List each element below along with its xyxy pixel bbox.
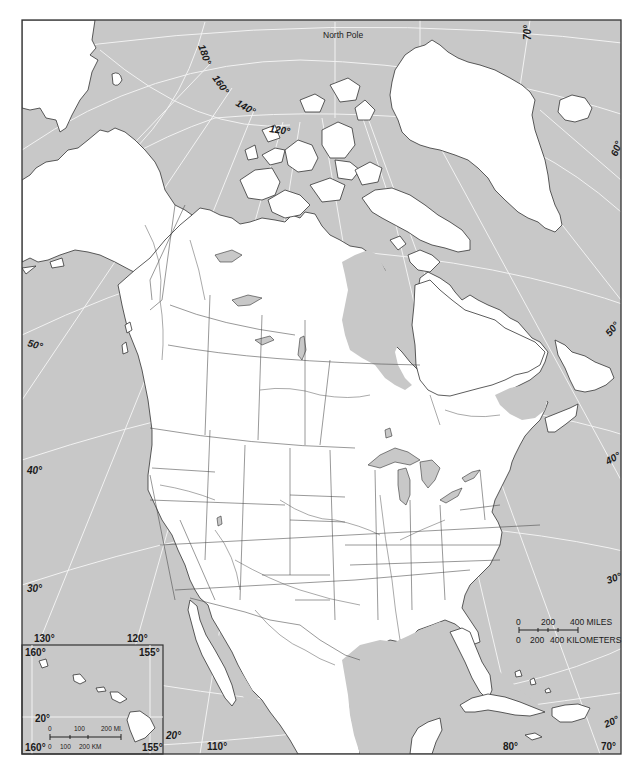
inset-scale-km-0: 0 (48, 743, 52, 750)
latitude-label-20-mexico: 20° (165, 730, 182, 741)
inset-scale-mi-100: 100 (74, 725, 85, 732)
longitude-label-80: 80° (503, 741, 518, 752)
longitude-label-130: 130° (34, 633, 55, 644)
inset-label-bottom-right: 155° (142, 742, 163, 753)
inset-latitude-label: 20° (35, 713, 50, 724)
scale-miles-0: 0 (516, 617, 521, 627)
inset-scale-km-200: 200 KM (79, 743, 101, 750)
inset-scale-km-100: 100 (60, 743, 71, 750)
longitude-label-110: 110° (207, 741, 227, 752)
scale-km-0: 0 (516, 635, 521, 645)
longitude-label-70-bottom: 70° (601, 741, 616, 752)
inset-label-top-left: 160° (25, 647, 46, 658)
inset-label-top-right: 155° (139, 647, 160, 658)
inset-label-bottom-left: 160° (25, 742, 46, 753)
scale-km-400: 400 KILOMETERS (550, 635, 622, 645)
longitude-label-120: 120° (127, 633, 148, 644)
north-pole-label: North Pole (323, 30, 363, 40)
hawaii-inset: 0 100 200 MI. 0 100 200 KM 160° 155° 160… (22, 645, 163, 754)
north-america-outline-map: 0 100 200 MI. 0 100 200 KM 160° 155° 160… (0, 0, 643, 769)
scale-miles-200: 200 (541, 617, 555, 627)
latitude-label-40-left: 40° (26, 465, 43, 476)
inset-scale-mi-0: 0 (48, 725, 52, 732)
latitude-label-30-left: 30° (27, 583, 43, 594)
inset-scale-mi-200: 200 MI. (101, 725, 123, 732)
land-molokai (96, 687, 106, 692)
longitude-label-70-top: 70° (522, 24, 533, 40)
scale-km-200: 200 (530, 635, 544, 645)
great-salt-lake (217, 516, 222, 526)
scale-miles-400: 400 MILES (570, 617, 612, 627)
